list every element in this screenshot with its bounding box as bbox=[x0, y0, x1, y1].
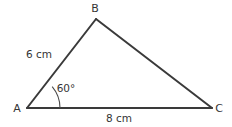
triangle-diagram: A B C 6 cm 8 cm 60° bbox=[0, 0, 232, 127]
side-length-label-ac: 8 cm bbox=[106, 113, 132, 124]
vertex-label-c: C bbox=[215, 103, 223, 114]
vertex-label-b: B bbox=[91, 3, 99, 14]
triangle-side-ab bbox=[27, 19, 96, 108]
triangle-svg-canvas bbox=[0, 0, 232, 127]
side-length-label-ab: 6 cm bbox=[26, 49, 52, 60]
triangle-side-bc bbox=[96, 19, 212, 108]
angle-measure-label-a: 60° bbox=[57, 83, 76, 94]
vertex-label-a: A bbox=[13, 103, 21, 114]
